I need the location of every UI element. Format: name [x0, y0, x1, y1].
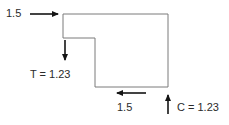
top-left-force-label: 1.5 [6, 7, 21, 19]
force-diagram: 1.5 T = 1.23 1.5 C = 1.23 [0, 0, 229, 125]
tension-label: T = 1.23 [30, 68, 70, 80]
l-shaped-member [63, 14, 168, 87]
compression-label: C = 1.23 [177, 101, 219, 113]
bottom-force-label: 1.5 [117, 101, 132, 113]
